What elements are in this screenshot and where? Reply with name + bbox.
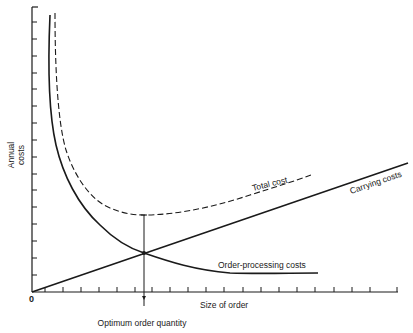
order-processing-label: Order-processing costs bbox=[218, 260, 306, 270]
carrying-costs-label: Carrying costs bbox=[348, 169, 403, 196]
optimum-arrow-icon bbox=[142, 296, 146, 300]
order-processing-curve bbox=[49, 15, 318, 273]
cost-chart: Annual costs 0 Size of order Optimum ord… bbox=[0, 0, 413, 333]
y-axis-label-line2: costs bbox=[16, 145, 26, 165]
total-cost-label: Total cost bbox=[251, 174, 289, 193]
optimum-label: Optimum order quantity bbox=[98, 318, 188, 328]
y-axis-label-line1: Annual bbox=[6, 142, 16, 169]
x-ticks bbox=[45, 287, 397, 292]
x-axis-label: Size of order bbox=[200, 300, 248, 310]
y-ticks bbox=[32, 22, 37, 275]
intersection-dot bbox=[142, 251, 146, 255]
origin-label: 0 bbox=[29, 294, 34, 304]
